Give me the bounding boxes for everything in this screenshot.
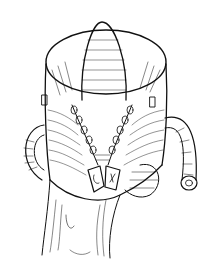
suture-clips (88, 166, 120, 192)
central-cone (82, 22, 126, 100)
cylinder-sleeve (42, 30, 167, 200)
left-tube (24, 125, 44, 180)
suture-seam (71, 105, 133, 165)
lower-bulge (125, 164, 159, 197)
surgical-illustration (0, 0, 213, 277)
illustration-canvas (0, 0, 213, 277)
lower-stalk (42, 180, 120, 258)
right-tube (165, 117, 197, 190)
